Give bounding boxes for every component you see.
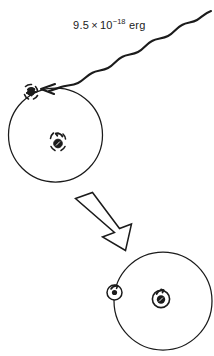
orbit-path-upper [9, 88, 103, 182]
transition-arrow [76, 193, 132, 251]
photon-energy-exponent: −18 [113, 17, 126, 26]
photon-energy-unit: erg [129, 19, 146, 31]
figure-root: 9.5×10−18 erg [0, 0, 214, 356]
photon-energy-base: 10 [100, 19, 113, 31]
photon-energy-label: 9.5×10−18 erg [73, 18, 146, 31]
multiplication-sign: × [89, 19, 100, 31]
transition-arrow-outline [76, 193, 132, 251]
electron-lower-body [112, 290, 117, 295]
photon-energy-coefficient: 9.5 [73, 19, 89, 31]
electron-lower [107, 285, 122, 300]
atom-upper [9, 84, 103, 182]
atom-lower [107, 252, 212, 350]
nucleus-upper [51, 133, 66, 151]
nucleus-upper-spin-arrowhead-icon [56, 133, 59, 135]
nucleus-lower [152, 289, 169, 307]
atom-photon-diagram [0, 0, 214, 356]
